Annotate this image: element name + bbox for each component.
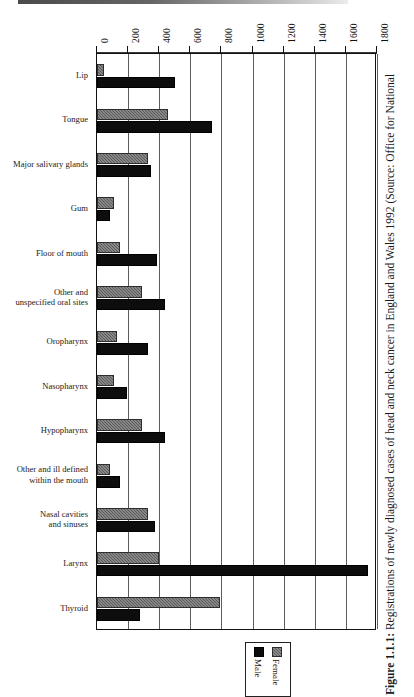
figure-caption: Figure 1.1.1: Registrations of newly dia… xyxy=(384,74,396,695)
y-axis-label-line: Gum xyxy=(0,203,88,213)
legend-swatch-male-icon xyxy=(254,647,264,657)
y-axis-label-hypopharynx: Hypopharynx xyxy=(0,425,88,435)
plot-frame xyxy=(96,53,376,630)
y-axis-label-line: and sinuses xyxy=(0,519,88,529)
bar-female-tongue xyxy=(97,109,168,121)
y-axis-label-lip: Lip xyxy=(0,70,88,80)
bar-female-lip xyxy=(97,64,104,76)
x-tick-0 xyxy=(96,46,97,53)
bar-female-floor-of-mouth xyxy=(97,242,120,254)
y-axis-label-line: Thyroid xyxy=(0,603,88,613)
chart-legend: Female Male xyxy=(245,642,291,697)
y-axis-label-gum: Gum xyxy=(0,203,88,213)
bar-male-thyroid xyxy=(97,609,140,621)
figure-caption-text: Registrations of newly diagnosed cases o… xyxy=(384,74,396,630)
bar-male-larynx xyxy=(97,565,368,577)
bar-female-oropharynx xyxy=(97,331,117,343)
y-axis-label-other-and-unspecified-oral-s: Other andunspecified oral sites xyxy=(0,287,88,307)
x-tick-1800 xyxy=(376,46,377,53)
y-axis-label-line: Major salivary glands xyxy=(0,159,88,169)
gridline-1600 xyxy=(346,54,347,629)
bar-female-other-and-ill-defined-wi xyxy=(97,464,110,476)
x-tick-600 xyxy=(189,46,190,53)
x-tick-1600 xyxy=(345,46,346,53)
bar-male-floor-of-mouth xyxy=(97,254,157,266)
gridline-400 xyxy=(159,54,160,629)
x-tick-1000 xyxy=(252,46,253,53)
y-axis-label-line: Oropharynx xyxy=(0,336,88,346)
figure-caption-label: Figure 1.1.1: xyxy=(384,633,396,695)
bar-female-nasopharynx xyxy=(97,375,114,387)
gridline-600 xyxy=(190,54,191,629)
y-axis-label-tongue: Tongue xyxy=(0,114,88,124)
y-axis-label-line: Tongue xyxy=(0,114,88,124)
x-tick-label-200: 200 xyxy=(131,28,141,43)
x-tick-label-600: 600 xyxy=(193,28,203,43)
y-axis-label-oropharynx: Oropharynx xyxy=(0,336,88,346)
x-tick-1200 xyxy=(283,46,284,53)
bar-male-tongue xyxy=(97,121,212,133)
gridline-1200 xyxy=(284,54,285,629)
x-tick-200 xyxy=(127,46,128,53)
bar-male-oropharynx xyxy=(97,343,148,355)
x-tick-label-1200: 1200 xyxy=(287,23,297,43)
y-axis-label-line: within the mouth xyxy=(0,475,88,485)
bar-female-larynx xyxy=(97,552,159,564)
x-tick-label-1600: 1600 xyxy=(349,23,359,43)
y-axis-label-line: Nasal cavities xyxy=(0,509,88,519)
bar-male-nasopharynx xyxy=(97,387,127,399)
y-axis-label-line: Lip xyxy=(0,70,88,80)
y-axis-label-nasopharynx: Nasopharynx xyxy=(0,381,88,391)
legend-entry-male: Male xyxy=(250,647,270,693)
x-tick-label-1800: 1800 xyxy=(380,23,390,43)
legend-label-female: Female xyxy=(271,659,281,686)
bar-male-major-salivary-glands xyxy=(97,165,151,177)
y-axis-label-major-salivary-glands: Major salivary glands xyxy=(0,159,88,169)
y-axis-label-larynx: Larynx xyxy=(0,558,88,568)
bar-female-nasal-cavities-and-sinus xyxy=(97,508,148,520)
y-axis-label-line: Larynx xyxy=(0,558,88,568)
y-axis-label-thyroid: Thyroid xyxy=(0,603,88,613)
bar-male-nasal-cavities-and-sinus xyxy=(97,521,155,533)
y-axis-label-line: Nasopharynx xyxy=(0,381,88,391)
y-axis-label-other-and-ill-defined-within: Other and ill definedwithin the mouth xyxy=(0,464,88,484)
legend-swatch-female-icon xyxy=(272,647,282,657)
x-tick-label-0: 0 xyxy=(100,38,110,43)
y-axis-label-line: Hypopharynx xyxy=(0,425,88,435)
x-tick-label-1000: 1000 xyxy=(256,23,266,43)
chart-plot-area xyxy=(96,53,376,630)
gridline-1800 xyxy=(377,54,378,629)
x-tick-label-400: 400 xyxy=(162,28,172,43)
y-axis-label-line: unspecified oral sites xyxy=(0,297,88,307)
y-axis-label-line: Floor of mouth xyxy=(0,248,88,258)
gridline-200 xyxy=(128,54,129,629)
x-tick-400 xyxy=(158,46,159,53)
bar-male-other-and-ill-defined-wi xyxy=(97,476,120,488)
x-tick-1400 xyxy=(314,46,315,53)
x-tick-label-1400: 1400 xyxy=(318,23,328,43)
gridline-1400 xyxy=(315,54,316,629)
scan-artifact-band xyxy=(18,0,348,4)
bar-female-hypopharynx xyxy=(97,419,142,431)
y-axis-label-nasal-cavities-and-sinuses: Nasal cavitiesand sinuses xyxy=(0,509,88,529)
x-tick-800 xyxy=(220,46,221,53)
y-axis-label-line: Other and xyxy=(0,287,88,297)
figure-page: 020040060080010001200140016001800 LipTon… xyxy=(0,0,414,697)
bar-male-lip xyxy=(97,77,175,89)
bar-male-gum xyxy=(97,210,110,222)
gridline-1000 xyxy=(253,54,254,629)
legend-label-male: Male xyxy=(253,659,263,678)
bar-female-thyroid xyxy=(97,597,220,609)
y-axis-label-line: Other and ill defined xyxy=(0,464,88,474)
bar-female-gum xyxy=(97,197,114,209)
gridline-800 xyxy=(221,54,222,629)
legend-entry-female: Female xyxy=(268,647,288,693)
y-axis-category-labels: LipTongueMajor salivary glandsGumFloor o… xyxy=(0,53,92,630)
y-axis-label-floor-of-mouth: Floor of mouth xyxy=(0,248,88,258)
bar-female-major-salivary-glands xyxy=(97,153,148,165)
x-tick-label-800: 800 xyxy=(224,28,234,43)
bar-male-hypopharynx xyxy=(97,432,165,444)
bar-male-other-and-unspecified-or xyxy=(97,299,165,311)
bar-female-other-and-unspecified-or xyxy=(97,286,142,298)
